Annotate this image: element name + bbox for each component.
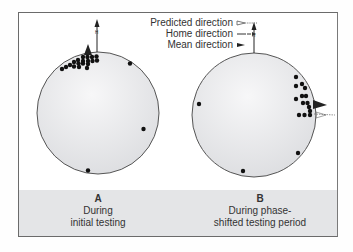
panel-letter: B — [200, 193, 320, 205]
legend: Predicted direction Home direction Mean … — [118, 17, 258, 50]
legend-label: Home direction — [166, 28, 233, 39]
caption-line: During phase- — [200, 205, 320, 217]
caption-panel-a: A During initial testing — [48, 193, 148, 229]
mean-direction-icon — [313, 100, 327, 109]
mean-direction-icon — [84, 44, 92, 55]
legend-item-mean: Mean direction — [118, 39, 258, 50]
legend-label: Mean direction — [167, 39, 233, 50]
predicted-direction-icon — [236, 19, 258, 27]
caption-line: During — [48, 205, 148, 217]
panel-letter: A — [48, 193, 148, 205]
caption-line: shifted testing period — [200, 217, 320, 229]
caption-panel-b: B During phase- shifted testing period — [200, 193, 320, 229]
mean-direction-icon — [236, 41, 258, 49]
legend-item-predicted: Predicted direction — [118, 17, 258, 28]
legend-label: Predicted direction — [150, 17, 233, 28]
legend-item-home: Home direction — [118, 28, 258, 39]
home-direction-icon — [236, 30, 258, 38]
home-label-a: H — [95, 30, 98, 35]
caption-line: initial testing — [48, 217, 148, 229]
